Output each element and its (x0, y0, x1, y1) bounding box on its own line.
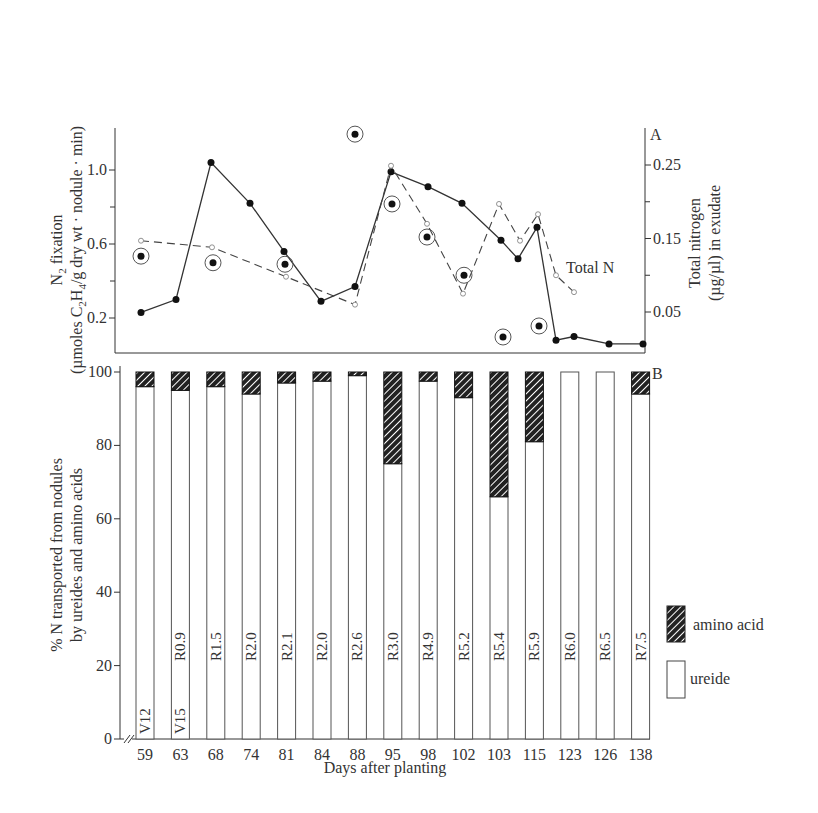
ureide-segment (490, 497, 508, 739)
stage-label: R2.1 (279, 632, 295, 661)
legend-label-amino-acid: amino acid (693, 616, 764, 633)
ureide-segment (632, 394, 650, 739)
total-n-point (210, 245, 215, 250)
panel-b-ylabel-line2: by ureides and amino acids (68, 468, 86, 642)
ureide-segment (136, 387, 154, 739)
panel-a-right-ylabel-line2: (µg/µl) in exudate (706, 185, 724, 301)
y-tick-label: 40 (96, 583, 112, 600)
amino-acid-segment (632, 372, 650, 394)
ureide-segment (171, 390, 189, 739)
amino-acid-segment (278, 372, 296, 383)
bar-59: 59V12 (136, 372, 154, 763)
y-tick-label: 0.6 (87, 235, 107, 252)
amino-acid-segment (384, 372, 402, 464)
n2-fixation-point (318, 298, 325, 305)
bar-102: 102R5.2 (452, 372, 476, 763)
ureide-segment (278, 383, 296, 739)
circled-point-dot (138, 253, 145, 260)
x-tick-label: 74 (243, 746, 259, 763)
panel-a-axes: 0.20.61.00.050.150.25 (87, 128, 681, 353)
total-n-point (497, 201, 502, 206)
panel-a-series (133, 126, 647, 347)
y-right-tick-label: 0.05 (653, 303, 681, 320)
circled-point-dot (210, 259, 217, 266)
y-right-tick-label: 0.15 (653, 230, 681, 247)
n2-fixation-point (138, 309, 145, 316)
legend-swatch-ureide (667, 661, 685, 698)
ureide-segment (561, 372, 579, 739)
n2-fixation-point (515, 255, 522, 262)
stage-label: R5.4 (491, 632, 507, 661)
x-axis-label: Days after planting (324, 759, 447, 777)
x-tick-label: 123 (558, 746, 582, 763)
total-n-point (284, 274, 289, 279)
ureide-segment (207, 387, 225, 739)
amino-acid-segment (525, 372, 543, 442)
stage-label: R6.5 (597, 632, 613, 661)
total-n-point (536, 212, 541, 217)
y-tick-label: 1.0 (87, 161, 107, 178)
stage-label: R4.9 (420, 632, 436, 661)
panel-a-right-ylabel-line1: Total nitrogen (686, 198, 704, 288)
bar-138: 138R7.5 (629, 372, 653, 763)
n2-fixation-point (352, 283, 359, 290)
panel-a-letter: A (650, 126, 662, 143)
total-n-annotation: Total N (566, 259, 615, 276)
stage-label: R2.0 (243, 632, 259, 661)
n2-fixation-point (425, 183, 432, 190)
amino-acid-segment (490, 372, 508, 497)
total-n-point (139, 238, 144, 243)
n2-fixation-point (640, 340, 647, 347)
bar-95: 95R3.0 (384, 372, 402, 763)
circled-point-dot (282, 261, 289, 268)
stage-label: V15 (172, 708, 188, 734)
ureide-segment (455, 398, 473, 739)
panel-b-letter: B (652, 365, 663, 382)
x-tick-label: 59 (137, 746, 153, 763)
circled-point-dot (389, 200, 396, 207)
circled-point-dot (424, 234, 431, 241)
n2-fixation-point (498, 237, 505, 244)
panel-b-bar-chart: 020406080100 59V1263V15R0.968R1.574R2.08… (48, 363, 764, 777)
ureide-segment (242, 394, 260, 739)
stage-label: R3.0 (385, 632, 401, 661)
ureide-segment (525, 442, 543, 739)
panel-a-line-chart: 0.20.61.00.050.150.25 A Total N N2 fixat… (48, 126, 724, 374)
panel-a-left-ylabel-line2: (µmoles C2H4/g dry wt · nodule · min) (68, 126, 88, 374)
total-n-point (425, 221, 430, 226)
stage-label: R6.0 (562, 632, 578, 661)
x-tick-label: 103 (487, 746, 511, 763)
total-n-point (353, 302, 358, 307)
y-tick-label: 80 (96, 436, 112, 453)
amino-acid-segment (348, 372, 366, 376)
ureide-segment (313, 381, 331, 739)
n2-fixation-line (141, 163, 643, 344)
ureide-segment (419, 381, 437, 739)
bar-74: 74R2.0 (242, 372, 260, 763)
amino-acid-segment (171, 372, 189, 390)
x-tick-label: 115 (523, 746, 546, 763)
n2-fixation-point (173, 296, 180, 303)
amino-acid-segment (242, 372, 260, 394)
panel-b-bars: 59V1263V15R0.968R1.574R2.081R2.184R2.088… (136, 372, 653, 763)
circled-point-dot (536, 322, 543, 329)
total-n-point (554, 273, 559, 278)
x-tick-label: 63 (172, 746, 188, 763)
legend-swatch-amino-acid (667, 606, 685, 642)
bar-98: 98R4.9 (419, 372, 437, 763)
n2-fixation-point (459, 200, 466, 207)
stage-label: R2.6 (349, 632, 365, 661)
y-right-tick-label: 0.25 (653, 156, 681, 173)
stage-label: R5.2 (456, 632, 472, 661)
amino-acid-segment (136, 372, 154, 387)
panel-a-left-ylabel-line1: N2 fixation (48, 215, 68, 286)
n2-fixation-point (388, 168, 395, 175)
amino-acid-segment (419, 372, 437, 381)
ureide-segment (596, 372, 614, 739)
circled-point-dot (352, 131, 359, 138)
x-tick-label: 81 (279, 746, 295, 763)
circled-point-dot (461, 272, 468, 279)
x-tick-label: 68 (208, 746, 224, 763)
panel-b-ylabel-line1: % N transported from nodules (48, 458, 66, 652)
n2-fixation-point (606, 340, 613, 347)
